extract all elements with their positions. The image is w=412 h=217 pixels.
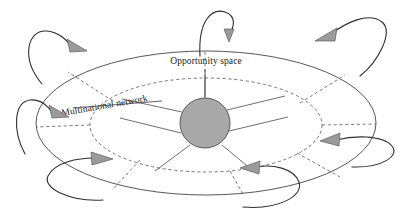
arrow-bottom-left	[47, 152, 113, 200]
dashed-radial-south	[230, 171, 243, 194]
diagram-canvas: Opportunity space Multinational network	[0, 0, 412, 217]
spoke-east	[229, 117, 288, 131]
arrow-top-left-curve	[29, 31, 72, 84]
concept-diagram-svg: Opportunity space Multinational network	[0, 0, 412, 217]
arrow-bottom-center	[240, 161, 300, 207]
spoke-west	[120, 118, 181, 133]
multinational-network-label: Multinational network	[61, 93, 149, 118]
arrow-top-center	[200, 11, 234, 56]
dashed-radial-east	[322, 124, 376, 125]
arrow-top-left	[29, 31, 87, 84]
dashed-radial-southwest	[112, 160, 140, 190]
arrow-mid-right-curve	[336, 137, 394, 167]
arrow-top-left-head	[67, 39, 87, 52]
arrow-mid-right-head	[320, 133, 340, 146]
dashed-radial-northeast	[300, 75, 345, 103]
arrow-bottom-center-curve	[243, 166, 300, 207]
central-hub-circle	[180, 98, 230, 148]
dashed-radial-west	[36, 125, 90, 127]
spoke-northeast	[227, 96, 285, 110]
arrow-bottom-left-head	[91, 152, 113, 165]
arrow-top-right	[315, 18, 386, 76]
dashed-radial-southeast	[297, 153, 340, 177]
spoke-southwest	[155, 145, 190, 171]
arrow-top-right-curve	[331, 18, 386, 76]
arrow-top-center-head	[224, 29, 234, 42]
dashed-radial-northwest	[68, 72, 113, 101]
arrow-mid-right	[320, 133, 394, 167]
arrow-top-right-head	[315, 28, 337, 41]
opportunity-space-label: Opportunity space	[170, 56, 242, 66]
